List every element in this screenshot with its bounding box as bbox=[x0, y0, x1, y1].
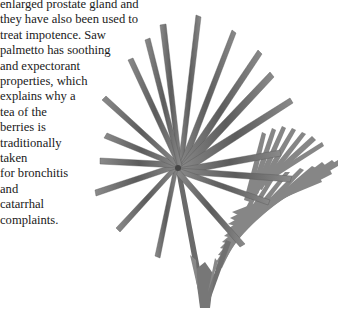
text-line: complaints. bbox=[0, 213, 139, 228]
text-line: for bronchitis bbox=[0, 166, 139, 181]
text-line: treat impotence. Saw bbox=[0, 28, 139, 43]
text-line: explains why a bbox=[0, 89, 139, 104]
text-line: berries is bbox=[0, 120, 139, 135]
text-line: traditionally bbox=[0, 136, 139, 151]
text-line: they have also been used to bbox=[0, 12, 139, 27]
article-text: enlarged prostate gland and they have al… bbox=[0, 0, 139, 228]
secondary-frond bbox=[214, 126, 338, 270]
text-line: taken bbox=[0, 151, 139, 166]
text-line: enlarged prostate gland and bbox=[0, 0, 139, 12]
text-line: and bbox=[0, 182, 139, 197]
text-line: catarrhal bbox=[0, 197, 139, 212]
text-line: properties, which bbox=[0, 74, 139, 89]
text-line: and expectorant bbox=[0, 59, 139, 74]
text-line: tea of the bbox=[0, 105, 139, 120]
text-line: palmetto has soothing bbox=[0, 43, 139, 58]
